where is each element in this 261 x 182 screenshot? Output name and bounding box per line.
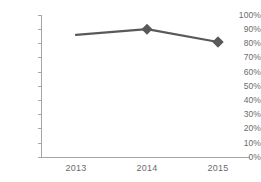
y-tick-label-30: 30% (227, 110, 261, 119)
x-tick-label-2014: 2014 (137, 164, 158, 173)
y-tick-label-60: 60% (227, 68, 261, 77)
y-tick-label-40: 40% (227, 96, 261, 105)
y-tick-label-90: 90% (227, 25, 261, 34)
y-tick-label-80: 80% (227, 39, 261, 48)
data-point-2013 (142, 24, 153, 35)
line-chart: 100% 90% 80% 70% 60% 50% 40% 30% 20% 10%… (0, 0, 261, 182)
x-tick-label-2015: 2015 (208, 164, 229, 173)
chart-plot-area (0, 0, 261, 182)
data-point-2015 (213, 37, 224, 48)
y-tick-label-100: 100% (227, 11, 261, 20)
y-tick-label-50: 50% (227, 82, 261, 91)
y-axis-ticks (38, 16, 42, 158)
x-tick-label-2013: 2013 (66, 164, 87, 173)
y-tick-label-0: 0% (227, 153, 261, 162)
y-tick-label-70: 70% (227, 53, 261, 62)
y-tick-label-10: 10% (227, 139, 261, 148)
y-tick-label-20: 20% (227, 124, 261, 133)
